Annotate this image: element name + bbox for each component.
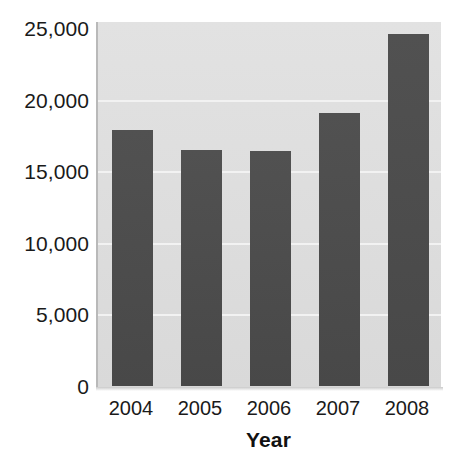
y-tick-label: 20,000 (0, 89, 89, 110)
x-tick-label: 2007 (303, 396, 373, 420)
bar (250, 151, 291, 386)
bar (112, 130, 153, 386)
bar (319, 113, 360, 387)
x-tick-label: 2004 (96, 396, 166, 420)
x-axis-title: Year (96, 428, 441, 452)
y-tick-label: 5,000 (0, 304, 89, 325)
x-axis: 20042005200620072008 (96, 396, 441, 422)
bar (181, 150, 222, 386)
bars-layer (98, 22, 441, 387)
x-tick-label: 2008 (372, 396, 442, 420)
x-tick-label: 2005 (165, 396, 235, 420)
y-tick-label: 10,000 (0, 232, 89, 253)
x-tick-label: 2006 (234, 396, 304, 420)
bar (388, 34, 429, 386)
plot-area (96, 22, 441, 387)
y-axis: 25,00020,00015,00010,0005,0000 (0, 0, 89, 475)
bar-chart-figure: 25,00020,00015,00010,0005,0000 200420052… (0, 0, 457, 475)
y-tick-label: 0 (0, 376, 89, 397)
y-tick-label: 15,000 (0, 161, 89, 182)
axis-baseline (96, 387, 443, 391)
y-tick-label: 25,000 (0, 18, 89, 39)
